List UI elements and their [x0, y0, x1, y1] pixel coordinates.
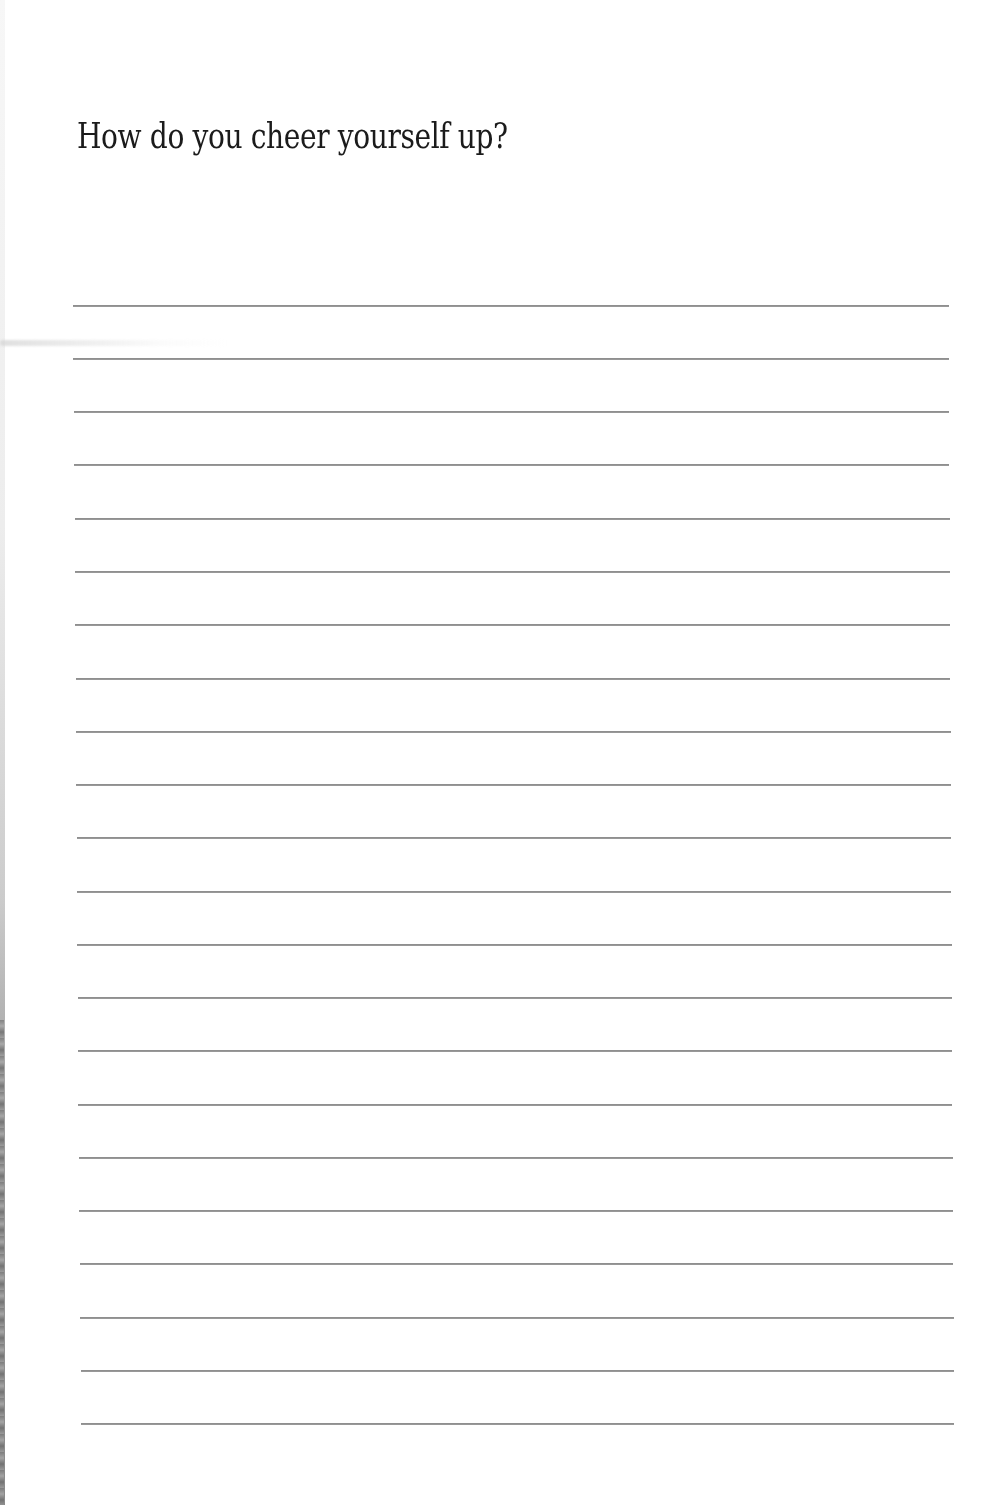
journal-page: How do you cheer yourself up? [0, 0, 982, 1505]
writing-line[interactable] [78, 1104, 952, 1106]
writing-line[interactable] [81, 1423, 954, 1425]
writing-line[interactable] [77, 891, 951, 893]
writing-line[interactable] [73, 358, 949, 360]
writing-line[interactable] [76, 731, 951, 733]
writing-line[interactable] [78, 997, 952, 999]
writing-line[interactable] [78, 1050, 952, 1052]
writing-line[interactable] [75, 624, 950, 626]
writing-line[interactable] [80, 1263, 953, 1265]
writing-line[interactable] [81, 1370, 954, 1372]
writing-line[interactable] [73, 305, 949, 307]
writing-line[interactable] [77, 944, 952, 946]
writing-line[interactable] [76, 678, 950, 680]
writing-line[interactable] [74, 411, 949, 413]
writing-lines[interactable] [0, 0, 982, 1505]
writing-line[interactable] [79, 1157, 953, 1159]
writing-line[interactable] [77, 837, 951, 839]
writing-line[interactable] [75, 571, 950, 573]
writing-line[interactable] [75, 518, 950, 520]
writing-line[interactable] [74, 464, 949, 466]
writing-line[interactable] [76, 784, 951, 786]
writing-line[interactable] [79, 1210, 953, 1212]
writing-line[interactable] [80, 1317, 954, 1319]
